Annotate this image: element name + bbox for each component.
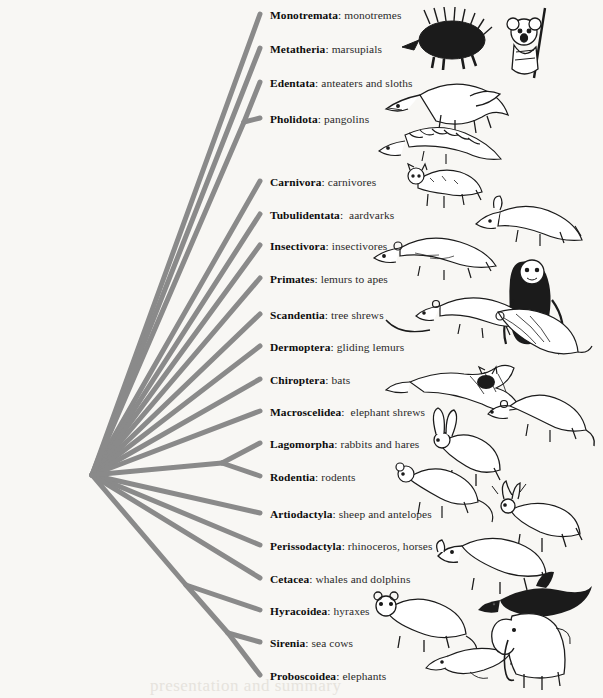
taxon-label-monotremata: Monotremata: monotremes [270,10,401,21]
taxon-common-name-dermoptera: gliding lemurs [337,341,405,353]
taxon-common-name-monotremata: monotremes [344,9,401,21]
taxon-labels: Monotremata: monotremesMetatheria: marsu… [0,0,603,698]
taxon-label-insectivora: Insectivora: insectivores [270,241,387,252]
taxon-name-macroscelidea: Macroscelidea [270,406,341,418]
taxon-common-name-lagomorpha: rabbits and hares [341,438,420,450]
taxon-common-name-macroscelidea: elephant shrews [348,406,426,418]
taxon-name-hyracoidea: Hyracoidea [270,605,327,617]
taxon-common-name-chiroptera: bats [331,374,350,386]
taxon-name-tubulidentata: Tubulidentata [270,209,340,221]
taxon-common-name-pholidota: pangolins [324,113,369,125]
taxon-common-name-sirenia: sea cows [312,637,354,649]
taxon-name-rodentia: Rodentia [270,471,315,483]
taxon-name-pholidota: Pholidota [270,113,318,125]
taxon-label-perissodactyla: Perissodactyla: rhinoceros, horses [270,541,433,552]
taxon-name-cetacea: Cetacea [270,573,309,585]
taxon-common-name-perissodactyla: rhinoceros, horses [348,540,433,552]
taxon-common-name-tubulidentata: aardvarks [346,209,394,221]
taxon-label-dermoptera: Dermoptera: gliding lemurs [270,342,404,353]
taxon-name-scandentia: Scandentia [270,309,325,321]
taxon-name-metatheria: Metatheria [270,43,325,55]
taxon-label-rodentia: Rodentia: rodents [270,472,356,483]
taxon-name-artiodactyla: Artiodactyla [270,508,333,520]
taxon-common-name-edentata: anteaters and sloths [321,77,412,89]
taxon-name-primates: Primates [270,273,314,285]
taxon-label-lagomorpha: Lagomorpha: rabbits and hares [270,439,419,450]
taxon-name-perissodactyla: Perissodactyla [270,540,342,552]
taxon-name-sirenia: Sirenia [270,637,305,649]
taxon-label-artiodactyla: Artiodactyla: sheep and antelopes [270,509,432,520]
taxon-label-chiroptera: Chiroptera: bats [270,375,350,386]
phylogenetic-tree-figure: Monotremata: monotremesMetatheria: marsu… [0,0,603,698]
taxon-label-scandentia: Scandentia: tree shrews [270,310,384,321]
taxon-name-carnivora: Carnivora [270,176,322,188]
taxon-label-macroscelidea: Macroscelidea: elephant shrews [270,407,425,418]
taxon-label-primates: Primates: lemurs to apes [270,274,388,285]
taxon-common-name-rodentia: rodents [321,471,355,483]
taxon-label-hyracoidea: Hyracoidea: hyraxes [270,606,370,617]
taxon-name-lagomorpha: Lagomorpha [270,438,334,450]
taxon-common-name-cetacea: whales and dolphins [316,573,411,585]
taxon-common-name-hyracoidea: hyraxes [334,605,370,617]
taxon-name-chiroptera: Chiroptera [270,374,325,386]
taxon-common-name-primates: lemurs to apes [321,273,388,285]
taxon-label-carnivora: Carnivora: carnivores [270,177,376,188]
taxon-common-name-artiodactyla: sheep and antelopes [339,508,432,520]
taxon-name-dermoptera: Dermoptera [270,341,330,353]
taxon-common-name-proboscoidea: elephants [342,670,386,682]
taxon-label-sirenia: Sirenia: sea cows [270,638,353,649]
taxon-common-name-insectivora: insectivores [332,240,388,252]
taxon-name-edentata: Edentata [270,77,315,89]
taxon-name-monotremata: Monotremata [270,9,338,21]
taxon-label-cetacea: Cetacea: whales and dolphins [270,574,410,585]
taxon-common-name-metatheria: marsupials [332,43,382,55]
taxon-label-edentata: Edentata: anteaters and sloths [270,78,413,89]
taxon-label-metatheria: Metatheria: marsupials [270,44,382,55]
taxon-common-name-scandentia: tree shrews [331,309,384,321]
taxon-common-name-carnivora: carnivores [328,176,376,188]
taxon-label-tubulidentata: Tubulidentata: aardvarks [270,210,394,221]
watermark-text: presentation and summary [150,676,341,696]
taxon-name-insectivora: Insectivora [270,240,326,252]
taxon-label-pholidota: Pholidota: pangolins [270,114,369,125]
